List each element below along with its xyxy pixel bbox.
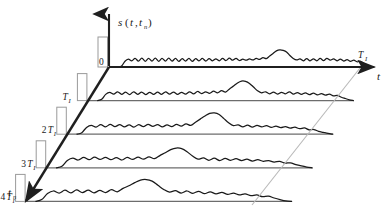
vertical-axis-arg-tn: t bbox=[139, 16, 143, 28]
depth-tick-prefix-2: 2 bbox=[42, 125, 47, 135]
signal-3d-sweep-figure: s ( t , t n ) 0 t T I t n 4TI3TI2TITI bbox=[0, 0, 392, 217]
depth-tick-prefix-4: 4 bbox=[1, 192, 6, 202]
sweep-group-1 bbox=[77, 74, 353, 101]
depth-guide-line bbox=[252, 68, 360, 205]
vertical-axis-label-s: s bbox=[118, 16, 122, 28]
echo-trace bbox=[77, 113, 333, 134]
depth-tick-subscript-2: I bbox=[53, 130, 57, 137]
depth-tick-subscript-1: I bbox=[67, 97, 71, 104]
transmit-pulse-rect bbox=[77, 74, 87, 101]
transmit-pulse-rect bbox=[36, 141, 46, 168]
vertical-axis-arg-tn-sub: n bbox=[144, 23, 147, 30]
transmit-pulse-rect bbox=[57, 107, 67, 134]
horizontal-axis-label-t: t bbox=[377, 70, 381, 82]
origin-label: 0 bbox=[99, 57, 104, 67]
echo-trace bbox=[36, 179, 292, 201]
vertical-axis-arg-t: t bbox=[130, 16, 134, 28]
axis-labels: s ( t , t n ) 0 t T I t n bbox=[8, 16, 381, 200]
vertical-axis-paren-close: ) bbox=[148, 16, 152, 29]
figure-canvas: s ( t , t n ) 0 t T I t n 4TI3TI2TITI bbox=[0, 0, 392, 217]
depth-tick-prefix-3: 3 bbox=[21, 159, 26, 169]
transmit-pulse-rect bbox=[16, 174, 26, 201]
vertical-axis-comma: , bbox=[135, 16, 138, 28]
sweep-group-3 bbox=[36, 141, 312, 168]
echo-trace bbox=[118, 50, 374, 67]
echo-trace bbox=[98, 81, 354, 101]
sweep-group-4 bbox=[16, 174, 292, 201]
echo-trace bbox=[56, 148, 312, 168]
sweep-group-0 bbox=[98, 37, 374, 67]
horizontal-axis-end-tick-sub: I bbox=[364, 55, 368, 62]
horizontal-axis-end-tick-T: T bbox=[358, 50, 364, 60]
sweep-group-2 bbox=[57, 107, 333, 134]
vertical-axis-paren-open: ( bbox=[125, 16, 129, 29]
depth-tick-subscript-3: I bbox=[32, 164, 36, 171]
